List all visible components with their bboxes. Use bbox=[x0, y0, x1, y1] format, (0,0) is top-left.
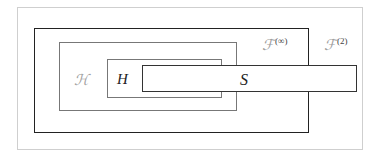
label-f-2-base: ℱ bbox=[324, 36, 336, 54]
label-f-2-superscript: (2) bbox=[337, 36, 348, 46]
label-script-h: ℋ bbox=[74, 73, 89, 88]
label-s: S bbox=[240, 72, 248, 88]
set-s-box bbox=[142, 65, 357, 92]
label-f-infinity: ℱ(∞) bbox=[262, 38, 287, 53]
label-f-2: ℱ(2) bbox=[324, 38, 348, 53]
label-f-infinity-superscript: (∞) bbox=[275, 36, 287, 46]
label-f-infinity-base: ℱ bbox=[262, 36, 274, 54]
label-h: H bbox=[117, 72, 128, 87]
